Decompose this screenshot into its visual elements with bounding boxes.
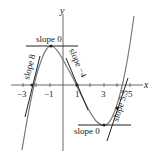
graph: x y −3 −1 1 3 5 slope 8 slope 0 slope −4… [0, 0, 156, 157]
x-tick-label: −3 [17, 89, 27, 99]
tangent-point [76, 84, 79, 87]
x-axis-label: x [143, 79, 149, 90]
y-axis-label: y [59, 5, 65, 16]
x-tick-label: 3 [101, 89, 106, 99]
x-tick-label: −1 [44, 89, 54, 99]
tangent-label-slope-5-5: slope 5.5 [110, 88, 130, 122]
tangent-point [50, 45, 53, 48]
tangent-point [31, 84, 34, 87]
tangent-label-slope-0-min: slope 0 [74, 126, 100, 136]
tangent-label-slope-neg4: slope −4 [67, 47, 89, 80]
tangent-point [103, 124, 106, 127]
tangent-label-slope-0-max: slope 0 [36, 34, 62, 44]
